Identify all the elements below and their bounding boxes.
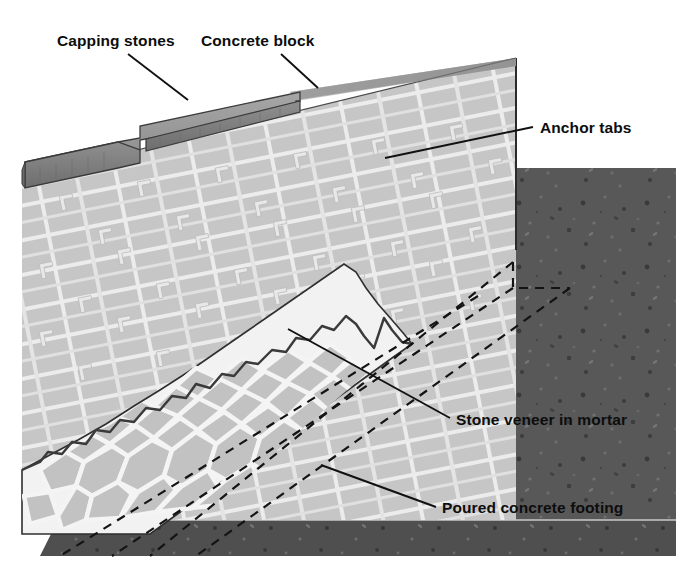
label-capping-stones: Capping stones [57, 32, 175, 49]
leader-capping-stones [128, 54, 188, 100]
leader-concrete-block [281, 54, 318, 88]
illustration-figure: Capping stones Concrete block Anchor tab… [0, 0, 694, 587]
label-stone-veneer-in-mortar: Stone veneer in mortar [456, 411, 627, 428]
label-poured-concrete-footing: Poured concrete footing [442, 499, 623, 516]
label-concrete-block: Concrete block [201, 32, 315, 49]
label-anchor-tabs: Anchor tabs [540, 119, 632, 136]
figure-svg: Capping stones Concrete block Anchor tab… [0, 0, 694, 587]
